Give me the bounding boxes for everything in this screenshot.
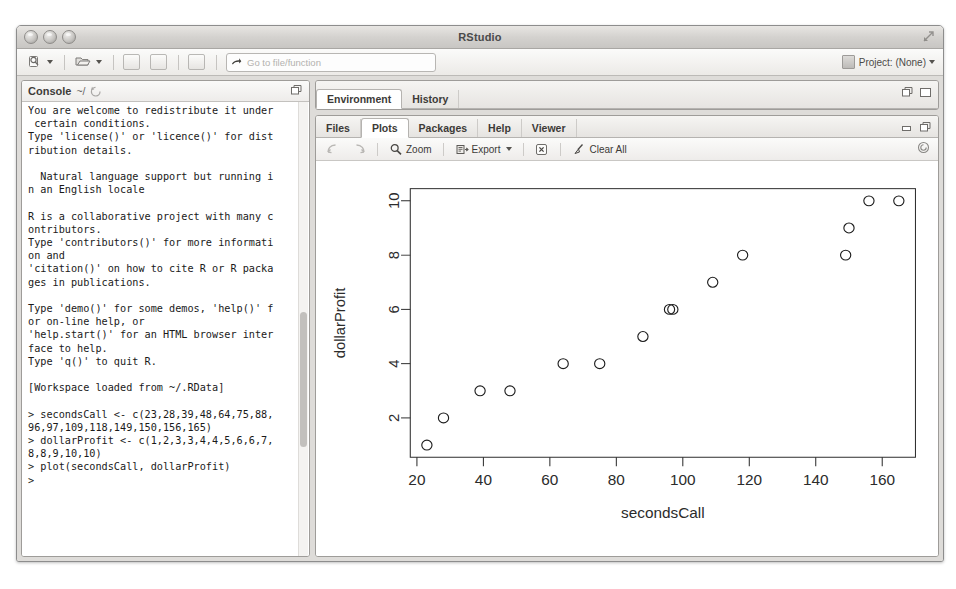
save-all-icon [150, 54, 167, 70]
svg-text:secondsCall: secondsCall [621, 505, 705, 522]
plot-canvas[interactable]: 24681020406080100120140160secondsCalldol… [316, 161, 938, 556]
svg-text:40: 40 [475, 471, 492, 488]
scatter-plot: 24681020406080100120140160secondsCalldol… [316, 161, 938, 556]
forward-arrow-icon [352, 143, 366, 156]
plot-export-button[interactable]: Export [451, 142, 517, 157]
main-toolbar: Go to file/function Project: (None) [17, 49, 943, 76]
console-text: You are welcome to redistribute it under… [28, 104, 303, 487]
export-icon [455, 143, 469, 156]
toolbar-separator [377, 143, 378, 156]
toolbar-separator [113, 55, 114, 70]
expand-icon[interactable] [922, 30, 935, 43]
tab-plots[interactable]: Plots [361, 118, 409, 138]
plots-tabs: Files Plots Packages Help Viewer [316, 116, 938, 138]
svg-text:20: 20 [408, 471, 425, 488]
minimize-pane-icon[interactable] [901, 86, 914, 98]
svg-text:120: 120 [736, 471, 762, 488]
svg-text:100: 100 [670, 471, 696, 488]
console-scrollbar[interactable] [298, 102, 308, 556]
plot-refresh-button[interactable] [917, 140, 930, 158]
plot-forward-button[interactable] [348, 142, 370, 157]
svg-text:80: 80 [608, 471, 625, 488]
maximize-icon[interactable] [290, 84, 303, 96]
save-all-button[interactable] [146, 52, 171, 73]
chevron-down-icon [96, 60, 102, 64]
plot-remove-button[interactable] [531, 142, 553, 157]
project-label: Project: (None) [859, 57, 926, 68]
refresh-plot-icon [917, 141, 930, 154]
svg-text:140: 140 [803, 471, 829, 488]
title-bar: RStudio [17, 26, 943, 49]
plots-pane-controls [901, 121, 932, 133]
chevron-down-icon [929, 60, 935, 64]
project-icon [842, 55, 855, 69]
remove-plot-icon [535, 143, 549, 156]
plots-pane: Files Plots Packages Help Viewer [315, 115, 939, 557]
minimize-pane-icon[interactable] [901, 121, 914, 133]
toolbar-separator [443, 143, 444, 156]
console-scrollbar-thumb[interactable] [300, 312, 307, 447]
right-panes: Environment History [315, 80, 939, 557]
plot-zoom-label: Zoom [406, 144, 432, 155]
tab-files[interactable]: Files [316, 119, 361, 137]
plot-clear-all-button[interactable]: Clear All [568, 142, 630, 157]
open-file-button[interactable] [70, 52, 106, 73]
console-header: Console ~/ [22, 81, 309, 102]
environment-tabs: Environment History [316, 80, 938, 109]
goto-arrow-icon [231, 57, 242, 68]
window-title: RStudio [17, 31, 943, 43]
toolbar-separator [560, 143, 561, 156]
maximize-pane-icon[interactable] [919, 121, 932, 133]
plot-back-button[interactable] [322, 142, 344, 157]
environment-pane: Environment History [315, 80, 939, 110]
open-file-icon [74, 54, 93, 70]
new-file-button[interactable] [23, 52, 57, 73]
panes-container: Console ~/ You are welcome to redist [17, 76, 943, 561]
rstudio-window: RStudio [16, 25, 944, 562]
new-file-icon [27, 54, 44, 70]
plots-toolbar: Zoom Export [316, 138, 938, 161]
save-icon [123, 54, 140, 70]
goto-file-input[interactable]: Go to file/function [226, 53, 436, 72]
chevron-down-icon [506, 147, 512, 151]
svg-text:8: 8 [385, 251, 402, 259]
print-icon [188, 54, 205, 70]
magnifier-icon [389, 143, 403, 156]
screen: RStudio [0, 0, 956, 589]
tab-packages[interactable]: Packages [409, 119, 478, 137]
console-path: ~/ [76, 85, 85, 97]
console-pane: Console ~/ You are welcome to redist [21, 80, 310, 557]
console-title: Console [28, 85, 71, 97]
toolbar-separator [523, 143, 524, 156]
broom-icon [572, 143, 586, 156]
console-header-controls [290, 84, 303, 96]
toolbar-separator [178, 55, 179, 70]
plot-export-label: Export [472, 144, 501, 155]
tab-viewer[interactable]: Viewer [522, 119, 577, 137]
refresh-icon[interactable] [89, 86, 102, 97]
toolbar-separator [64, 55, 65, 70]
environment-pane-controls [901, 86, 932, 98]
plot-clear-all-label: Clear All [589, 144, 626, 155]
plot-zoom-button[interactable]: Zoom [385, 142, 436, 157]
svg-text:dollarProfit: dollarProfit [330, 287, 347, 359]
project-button[interactable]: Project: (None) [842, 55, 935, 69]
tab-history[interactable]: History [402, 90, 459, 108]
svg-text:4: 4 [385, 360, 402, 368]
toolbar-separator [216, 55, 217, 70]
tab-environment[interactable]: Environment [316, 89, 402, 109]
svg-text:6: 6 [385, 305, 402, 313]
svg-text:60: 60 [541, 471, 558, 488]
tab-help[interactable]: Help [478, 119, 522, 137]
back-arrow-icon [326, 143, 340, 156]
print-button[interactable] [184, 52, 209, 73]
svg-text:2: 2 [385, 414, 402, 422]
svg-text:160: 160 [869, 471, 895, 488]
chevron-down-icon [47, 60, 53, 64]
maximize-pane-icon[interactable] [919, 86, 932, 98]
svg-text:10: 10 [385, 193, 402, 209]
goto-file-placeholder: Go to file/function [247, 57, 321, 68]
console-output-area[interactable]: You are welcome to redistribute it under… [22, 102, 309, 556]
save-button[interactable] [119, 52, 144, 73]
